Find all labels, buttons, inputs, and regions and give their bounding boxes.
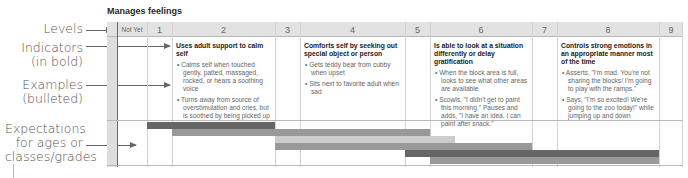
indicator-text: Uses adult support to calm self (176, 42, 274, 58)
divider-main (117, 22, 118, 167)
indicator-text: Is able to look at a situation different… (434, 42, 530, 66)
indicator-cell-level-8: Controls strong emotions in an appropria… (561, 42, 657, 123)
progression-grid: Not Yet 1 2 3 4 5 6 7 8 9 Uses adult sup… (107, 22, 683, 167)
examples-label: Examples (bulleted) (20, 78, 83, 106)
level-3: 3 (275, 23, 300, 37)
example-item: When the block area is full, looks to se… (434, 69, 530, 93)
example-item: Gets teddy bear from cubby when upset (304, 61, 403, 77)
divider (557, 22, 558, 167)
expectation-bar (275, 143, 532, 150)
level-5: 5 (405, 23, 430, 37)
example-item: Calms self when touched gently, patted, … (176, 61, 274, 93)
divider (532, 22, 533, 167)
level-4: 4 (300, 23, 405, 37)
gray-strip (107, 22, 117, 167)
level-7: 7 (532, 23, 557, 37)
expectation-bar (405, 150, 659, 157)
level-6: 6 (430, 23, 532, 37)
example-item: Scowls, "I didn't get to paint this morn… (434, 96, 530, 128)
divider (147, 22, 148, 167)
expectation-bar (430, 157, 659, 164)
expectation-bar (172, 129, 430, 136)
expectation-bar (275, 136, 455, 143)
indicator-text: Comforts self by seeking out special obj… (304, 42, 403, 58)
expectation-bar (147, 122, 275, 129)
divider (172, 22, 173, 167)
example-item: Asserts, "I'm mad. You're not sharing th… (561, 69, 657, 93)
example-item: Turns away from source of overstimulatio… (176, 96, 274, 120)
indicator-cell-level-2: Uses adult support to calm self Calms se… (176, 42, 274, 123)
expectations-label: Expectations for ages or classes/grades (5, 122, 83, 164)
level-9: 9 (659, 23, 683, 37)
grid-bottom-line (107, 165, 683, 166)
level-not-yet: Not Yet (117, 23, 147, 37)
indicator-cell-level-6: Is able to look at a situation different… (434, 42, 530, 131)
level-8: 8 (557, 23, 659, 37)
chart-title: Manages feelings (107, 6, 182, 16)
example-item: Sits next to favorite adult when sad (304, 80, 403, 96)
divider-right (682, 22, 683, 167)
level-1: 1 (147, 23, 172, 37)
levels-label: Levels (30, 22, 83, 36)
divider (659, 22, 660, 167)
indicators-label: Indicators (in bold) (20, 41, 83, 69)
example-item: Says, "I'm so excited! We're going to th… (561, 96, 657, 120)
level-2: 2 (172, 23, 275, 37)
indicator-text: Controls strong emotions in an appropria… (561, 42, 657, 66)
figure-marker (13, 164, 14, 178)
indicator-cell-level-4: Comforts self by seeking out special obj… (304, 42, 403, 99)
